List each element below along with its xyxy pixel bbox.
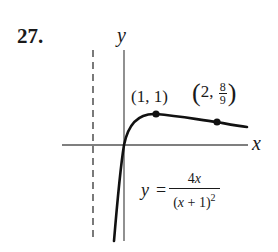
numerator-var: x bbox=[195, 171, 201, 186]
equation-numerator: 4x bbox=[169, 171, 219, 189]
numerator-coef: 4 bbox=[188, 171, 195, 186]
denominator-exponent: 2 bbox=[211, 192, 216, 203]
problem-number: 27. bbox=[17, 24, 43, 49]
point-max bbox=[152, 110, 159, 117]
equals-sign: = bbox=[156, 180, 166, 201]
y-axis-label: y bbox=[117, 24, 126, 47]
fraction: 8 9 bbox=[219, 81, 227, 106]
paren-open: ( bbox=[192, 78, 201, 107]
point-label-max: (1, 1) bbox=[131, 87, 168, 107]
equation-denominator: (x + 1)2 bbox=[173, 189, 215, 211]
equation-fraction: 4x (x + 1)2 bbox=[173, 171, 215, 211]
point-inflection bbox=[213, 118, 220, 125]
x-axis-label: x bbox=[252, 132, 261, 155]
fraction-numerator: 8 bbox=[219, 81, 227, 94]
point-label-prefix: 2, bbox=[201, 82, 214, 101]
denominator-rest: + 1) bbox=[184, 195, 211, 210]
fraction-denominator: 9 bbox=[220, 94, 226, 106]
point-label-inflection: (2, 8 9 ) bbox=[192, 78, 236, 108]
equation-lhs: y bbox=[141, 180, 149, 201]
paren-close: ) bbox=[228, 78, 237, 107]
function-equation: y = 4x (x + 1)2 bbox=[141, 171, 216, 211]
